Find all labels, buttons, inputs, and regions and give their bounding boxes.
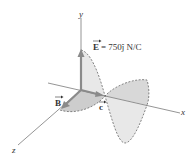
x-axis-label: x [180,107,185,117]
y-axis-label: y [78,9,83,19]
c-overarrow-head [104,101,107,104]
e-field-wave-upper-lobe [81,50,105,96]
b-vector-symbol: B [55,98,61,108]
e-vector-symbol: E [93,42,99,52]
em-wave-diagram: y x z E = 750ĵ N/C B c [0,0,195,162]
e-field-equation: = 750ĵ N/C [101,42,142,52]
b-overarrow-head [61,96,64,99]
c-vector-symbol: c [99,102,103,112]
z-axis-label: z [11,145,16,155]
